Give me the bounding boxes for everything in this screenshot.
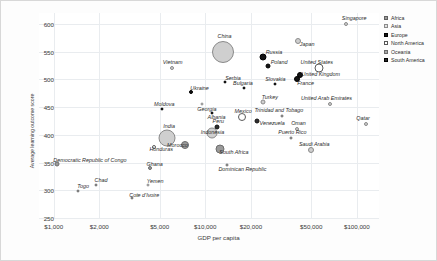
- x-axis-label: GDP per capita: [1, 234, 436, 241]
- x-axis-tick-label: $20,000: [221, 223, 281, 230]
- point-label: Moldova: [154, 101, 174, 107]
- legend-label: Africa: [391, 15, 404, 21]
- legend-item-europe[interactable]: Europe: [384, 32, 434, 38]
- legend-item-northamerica[interactable]: North America: [384, 40, 434, 46]
- point-label: Singapore: [342, 15, 367, 21]
- point-label: Democratic Republic of Congo: [53, 157, 126, 163]
- legend-marker-icon: [384, 58, 388, 62]
- x-axis-tick-label: $100,000: [327, 223, 387, 230]
- legend-label: Oceania: [391, 49, 410, 55]
- point-label: France: [297, 80, 314, 86]
- point-label: Bulgaria: [233, 80, 253, 86]
- grid-line-horizontal: [39, 218, 379, 219]
- data-point[interactable]: [77, 190, 80, 193]
- y-axis-tick-label: 250: [14, 215, 54, 222]
- point-label: China: [217, 33, 231, 39]
- plot-area: SingaporeJapanChinaRussiaPolandUnited St…: [39, 13, 379, 218]
- point-label: Ukraine: [190, 85, 209, 91]
- grid-line-horizontal: [39, 52, 379, 53]
- point-label: India: [163, 123, 175, 129]
- y-axis-tick-label: 450: [14, 104, 54, 111]
- grid-line-vertical: [205, 13, 206, 218]
- legend-label: North America: [391, 40, 424, 46]
- point-label: Russia: [266, 49, 282, 55]
- point-label: Turkey: [262, 94, 278, 100]
- legend-label: Asia: [391, 23, 401, 29]
- legend-marker-icon: [384, 33, 388, 37]
- legend-label: South America: [391, 57, 425, 63]
- legend-label: Europe: [391, 32, 408, 38]
- point-label: Honduras: [149, 146, 172, 152]
- point-label: Saudi Arabia: [299, 141, 330, 147]
- point-label: Chad: [94, 177, 107, 183]
- point-label: United Kingdom: [302, 71, 340, 77]
- point-label: Cote d'Ivoire: [129, 192, 159, 198]
- point-label: South Africa: [219, 149, 248, 155]
- point-label: Qatar: [356, 115, 369, 121]
- data-point[interactable]: [344, 22, 348, 26]
- chart-figure: SingaporeJapanChinaRussiaPolandUnited St…: [0, 0, 437, 261]
- point-label: Poland: [271, 59, 288, 65]
- data-point[interactable]: [212, 41, 234, 63]
- point-label: Mexico: [235, 108, 252, 114]
- data-point[interactable]: [161, 107, 164, 110]
- y-axis-tick-label: 400: [14, 131, 54, 138]
- point-label: Ghana: [147, 161, 163, 167]
- legend-item-africa[interactable]: Africa: [384, 15, 434, 21]
- data-point[interactable]: [364, 122, 368, 126]
- y-axis-tick-label: 300: [14, 187, 54, 194]
- point-label: Vietnam: [163, 59, 183, 65]
- grid-line-horizontal: [39, 24, 379, 25]
- point-label: United States: [300, 59, 332, 65]
- legend: AfricaAsiaEuropeNorth AmericaOceaniaSout…: [384, 15, 434, 65]
- point-label: Dominican Republic: [218, 166, 266, 172]
- point-label: Oman: [291, 120, 306, 126]
- point-label: Yemen: [147, 178, 164, 184]
- legend-item-southamerica[interactable]: South America: [384, 57, 434, 63]
- data-point[interactable]: [94, 183, 97, 186]
- data-point[interactable]: [274, 82, 277, 85]
- grid-line-horizontal: [39, 79, 379, 80]
- data-point[interactable]: [308, 147, 314, 153]
- data-point[interactable]: [170, 66, 174, 70]
- point-label: Japan: [300, 41, 315, 47]
- grid-line-vertical: [160, 13, 161, 218]
- y-axis-tick-label: 500: [14, 76, 54, 83]
- point-label: Puerto Rico: [278, 129, 306, 135]
- point-label: United Arab Emirates: [301, 95, 352, 101]
- point-label: Venezuela: [260, 120, 285, 126]
- legend-marker-icon: [384, 41, 388, 45]
- data-point[interactable]: [238, 113, 246, 121]
- point-label: Togo: [77, 183, 89, 189]
- data-point[interactable]: [290, 136, 293, 139]
- grid-line-horizontal: [39, 190, 379, 191]
- point-label: Indonesia: [201, 129, 224, 135]
- point-label: Peru: [213, 118, 224, 124]
- legend-marker-icon: [384, 50, 388, 54]
- legend-marker-icon: [384, 16, 388, 20]
- y-axis-tick-label: 600: [14, 21, 54, 28]
- point-label: Georgia: [197, 106, 216, 112]
- data-point[interactable]: [260, 99, 265, 104]
- legend-marker-icon: [384, 24, 388, 28]
- data-point[interactable]: [280, 114, 283, 117]
- point-label: Trinidad and Tobago: [254, 107, 303, 113]
- grid-line-vertical: [99, 13, 100, 218]
- legend-item-oceania[interactable]: Oceania: [384, 49, 434, 55]
- grid-line-vertical: [251, 13, 252, 218]
- point-label: Slovakia: [265, 76, 285, 82]
- legend-item-asia[interactable]: Asia: [384, 23, 434, 29]
- grid-line-horizontal: [39, 163, 379, 164]
- x-axis-tick-label: $2,000: [69, 223, 129, 230]
- data-point[interactable]: [242, 86, 245, 89]
- data-point[interactable]: [328, 102, 332, 106]
- y-axis-tick-label: 350: [14, 159, 54, 166]
- y-axis-tick-label: 550: [14, 48, 54, 55]
